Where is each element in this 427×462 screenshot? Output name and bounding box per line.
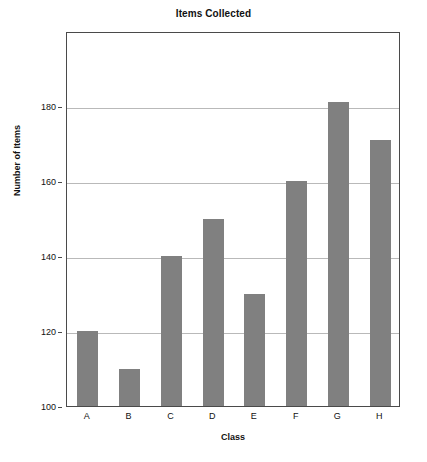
bar-c xyxy=(161,256,182,406)
x-tick-label-e: E xyxy=(239,411,269,421)
bar-d xyxy=(203,219,224,407)
y-tick-mark xyxy=(58,332,62,333)
x-tick-label-d: D xyxy=(197,411,227,421)
y-tick-mark xyxy=(58,107,62,108)
bar-b xyxy=(119,369,140,407)
y-tick-mark xyxy=(58,182,62,183)
x-tick-label-g: G xyxy=(322,411,352,421)
y-tick-label: 180 xyxy=(41,103,56,112)
bar-a xyxy=(77,331,98,406)
y-tick-label: 120 xyxy=(41,328,56,337)
bar-h xyxy=(370,140,391,406)
x-tick-label-c: C xyxy=(155,411,185,421)
bar-f xyxy=(286,181,307,406)
chart-title: Items Collected xyxy=(0,8,427,19)
bar-e xyxy=(244,294,265,407)
plot-area xyxy=(66,32,400,407)
x-tick-label-h: H xyxy=(364,411,394,421)
bar-chart-figure: Items Collected Number of Items 10012014… xyxy=(0,0,427,462)
y-tick-label: 100 xyxy=(41,403,56,412)
y-axis-tick-labels: 100120140160180 xyxy=(0,32,62,407)
x-tick-label-f: F xyxy=(281,411,311,421)
y-tick-label: 140 xyxy=(41,253,56,262)
bar-g xyxy=(328,102,349,406)
x-tick-label-b: B xyxy=(114,411,144,421)
x-tick-label-a: A xyxy=(72,411,102,421)
y-tick-mark xyxy=(58,257,62,258)
x-axis-title: Class xyxy=(66,432,400,442)
y-tick-label: 160 xyxy=(41,178,56,187)
bars-layer xyxy=(67,33,399,406)
x-axis-tick-labels: ABCDEFGH xyxy=(66,411,400,425)
y-tick-mark xyxy=(58,407,62,408)
